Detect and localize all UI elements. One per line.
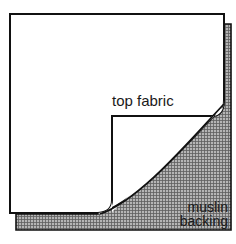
top-fabric-label: top fabric — [112, 93, 174, 108]
quilt-layers-diagram: top fabric muslin backing — [0, 0, 236, 244]
muslin-label-line1: muslin — [188, 200, 228, 214]
muslin-label-line2: backing — [180, 214, 228, 228]
